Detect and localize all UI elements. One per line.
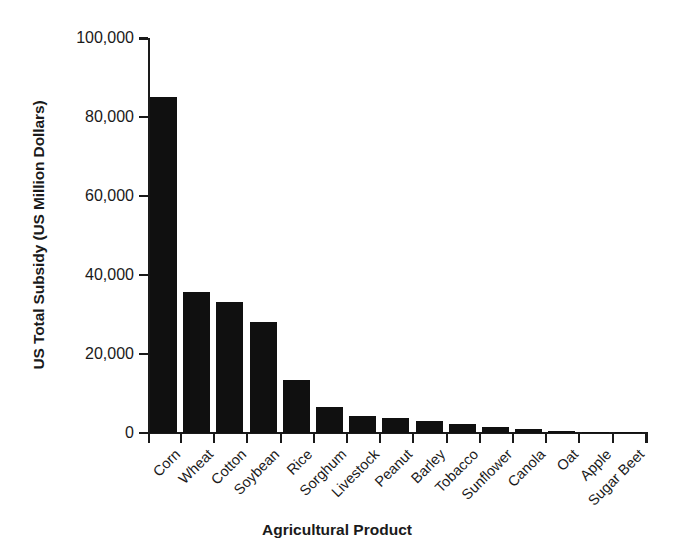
x-axis-tick-mark: [246, 434, 248, 443]
x-axis-tick-mark: [148, 434, 150, 443]
y-axis-tick-mark: [139, 432, 148, 434]
bar: [548, 431, 575, 433]
plot-area: [148, 38, 648, 433]
y-axis-tick-label: 40,000: [85, 266, 134, 284]
bar: [316, 407, 343, 433]
x-axis-tick-mark: [512, 434, 514, 443]
y-axis-tick-mark: [139, 195, 148, 197]
x-axis-tick-mark: [612, 434, 614, 443]
bar: [449, 424, 476, 433]
x-axis-tick-mark: [446, 434, 448, 443]
x-axis-tick-mark: [578, 434, 580, 443]
x-axis-tick-label: Wheat: [175, 446, 216, 487]
x-axis-tick-mark: [479, 434, 481, 443]
y-axis-tick-label: 60,000: [85, 187, 134, 205]
x-axis-tick-mark: [213, 434, 215, 443]
y-axis-tick-mark: [139, 116, 148, 118]
x-axis-title: Agricultural Product: [0, 521, 674, 539]
x-axis-tick-mark: [280, 434, 282, 443]
bar: [382, 418, 409, 433]
x-axis-tick-mark: [313, 434, 315, 443]
bar: [150, 97, 177, 433]
bar: [515, 429, 542, 433]
y-axis-tick-label: 80,000: [85, 108, 134, 126]
bar: [416, 421, 443, 433]
bar-chart-figure: US Total Subsidy (US Million Dollars) 02…: [0, 0, 674, 560]
bar: [216, 302, 243, 433]
bar: [482, 427, 509, 433]
y-axis-tick-mark: [139, 353, 148, 355]
x-axis-tick-label: Oat: [553, 446, 581, 474]
x-axis-tick-mark: [379, 434, 381, 443]
x-axis-tick-mark: [545, 434, 547, 443]
y-axis-tick-label: 0: [125, 424, 134, 442]
bar: [615, 432, 642, 434]
bar: [283, 380, 310, 433]
y-axis-title: US Total Subsidy (US Million Dollars): [22, 15, 56, 455]
bar: [250, 322, 277, 433]
x-axis-tick-mark: [645, 434, 647, 443]
y-axis-tick-label: 20,000: [85, 345, 134, 363]
y-axis-tick-label: 100,000: [76, 29, 134, 47]
bar: [582, 432, 609, 434]
x-axis-tick-mark: [346, 434, 348, 443]
y-axis-tick-mark: [139, 274, 148, 276]
bar: [349, 416, 376, 433]
x-axis-tick-mark: [180, 434, 182, 443]
bar: [183, 292, 210, 433]
x-axis-tick-mark: [412, 434, 414, 443]
y-axis-tick-mark: [139, 37, 148, 39]
